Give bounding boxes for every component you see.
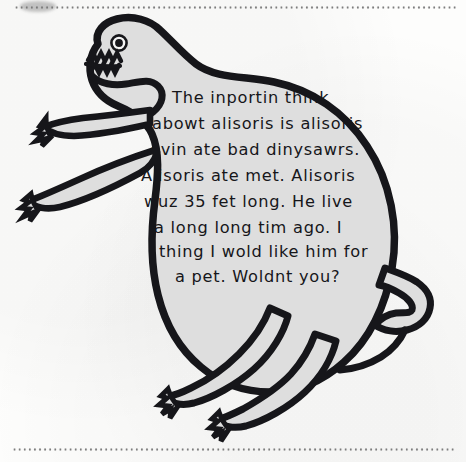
front-arm-upper — [36, 110, 150, 146]
eye — [111, 35, 126, 50]
front-arm-lower — [21, 150, 157, 221]
front-arm-upper-shape — [44, 110, 150, 136]
scanned-page: The inportin think abowt alisoris is ali… — [0, 0, 466, 462]
mouth-line — [86, 64, 120, 66]
front-arm-lower-shape — [29, 150, 157, 208]
eye-pupil — [115, 39, 123, 47]
dinosaur-illustration — [0, 0, 466, 462]
dinosaur-silhouette — [90, 18, 394, 392]
body-and-head-shape — [90, 18, 394, 392]
